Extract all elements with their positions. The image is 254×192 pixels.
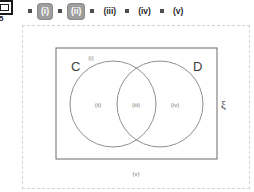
bullet-separator-icon [125,9,129,13]
step-button-iv[interactable]: (iv) [135,4,154,19]
page-indicator: /5 [0,0,17,26]
step-group-2: (ii) [52,4,84,19]
step-button-ii[interactable]: (ii) [68,4,84,19]
step-group-3: (iii) [84,4,119,19]
step-button-v[interactable]: (v) [170,4,186,19]
bullet-separator-icon [160,9,164,13]
step-navigation: (i) (ii) (iii) (iv) (v) [22,0,186,22]
region-label-i: (i) [88,55,93,61]
step-button-iii[interactable]: (iii) [100,4,119,19]
step-button-i[interactable]: (i) [38,4,52,19]
toolbar: /5 (i) (ii) (iii) (iv) (v) [0,0,254,22]
region-label-ii: (ii) [95,102,102,108]
region-label-v: (v) [133,171,140,177]
bullet-separator-icon [58,9,62,13]
page-count-label: /5 [0,14,3,24]
step-group-4: (iv) [119,4,154,19]
set-d-label: D [193,59,202,74]
diagram-content-frame: C D ξ (i) (ii) (iii) (iv) (v) [22,25,250,189]
bullet-separator-icon [28,9,32,13]
set-c-circle[interactable] [70,61,156,147]
step-group-1: (i) [22,4,52,19]
page-icon[interactable] [0,0,13,15]
venn-diagram: C D ξ (i) (ii) (iii) (iv) (v) [23,26,251,190]
region-label-iv: (iv) [171,102,179,108]
bullet-separator-icon [90,9,94,13]
region-label-iii: (iii) [132,102,140,108]
set-d-circle[interactable] [117,61,203,147]
venn-diagram-svg: C D ξ (i) (ii) (iii) (iv) (v) [23,26,251,190]
universal-set-label: ξ [221,98,226,111]
set-c-label: C [71,59,80,74]
step-group-5: (v) [154,4,186,19]
